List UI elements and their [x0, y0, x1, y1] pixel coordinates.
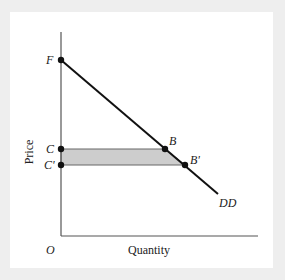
point-c — [58, 146, 64, 152]
label-c-prime: C' — [44, 158, 55, 172]
label-b-prime: B' — [190, 153, 200, 167]
point-f — [58, 57, 64, 63]
label-c: C — [46, 142, 55, 156]
point-b — [162, 146, 168, 152]
point-c-prime — [58, 162, 64, 168]
point-b-prime — [182, 162, 188, 168]
demand-curve — [61, 60, 218, 194]
label-f: F — [45, 53, 54, 67]
label-origin: O — [46, 243, 55, 257]
y-axis-label: Price — [22, 140, 36, 165]
x-axis-label: Quantity — [128, 243, 170, 257]
label-b: B — [169, 134, 177, 148]
demand-diagram: F C C' B B' DD O Quantity Price — [0, 0, 285, 280]
label-dd: DD — [218, 196, 237, 210]
